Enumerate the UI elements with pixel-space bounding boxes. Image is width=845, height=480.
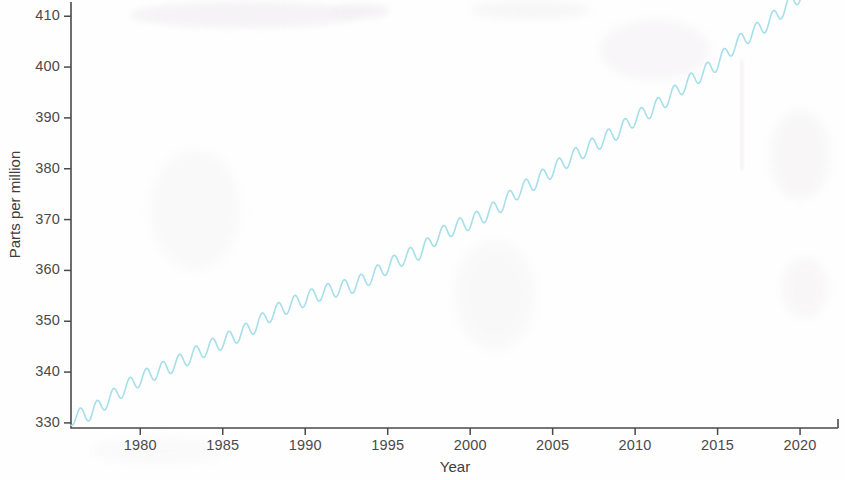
- x-tick-label: 1995: [353, 437, 423, 453]
- x-tick-label: 1990: [270, 437, 340, 453]
- y-tick-label: 390: [0, 109, 60, 125]
- y-tick-label: 340: [0, 363, 60, 379]
- x-tick-label: 1985: [188, 437, 258, 453]
- x-tick-label: 2005: [518, 437, 588, 453]
- x-axis-ticks: [140, 428, 800, 435]
- plot-area: [0, 0, 845, 480]
- x-axis-title: Year: [395, 458, 515, 475]
- x-tick-label: 2010: [600, 437, 670, 453]
- x-tick-label: 2000: [435, 437, 505, 453]
- y-tick-label: 400: [0, 58, 60, 74]
- x-tick-label: 1980: [105, 437, 175, 453]
- y-tick-label: 410: [0, 7, 60, 23]
- x-tick-label: 2015: [683, 437, 753, 453]
- y-axis-ticks: [64, 16, 71, 423]
- y-tick-label: 330: [0, 414, 60, 430]
- x-tick-label: 2020: [765, 437, 835, 453]
- data-line-co2: [71, 0, 838, 426]
- chart-figure: 330340350360370380390400410 198019851990…: [0, 0, 845, 480]
- y-tick-label: 350: [0, 312, 60, 328]
- y-axis-title: Parts per million: [6, 135, 23, 275]
